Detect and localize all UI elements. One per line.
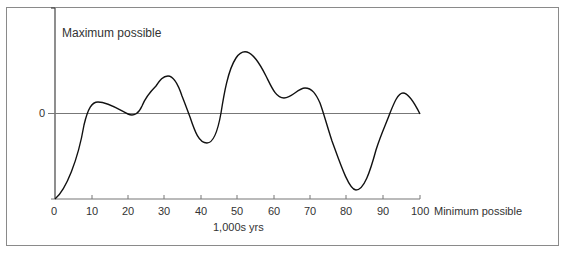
x-tick-label-0: 0 bbox=[51, 206, 57, 217]
data-curve bbox=[55, 52, 420, 199]
x-tick-label-60: 60 bbox=[268, 206, 280, 217]
x-tick-label-80: 80 bbox=[340, 206, 352, 217]
x-tick-label-20: 20 bbox=[122, 206, 134, 217]
x-tick-label-30: 30 bbox=[158, 206, 170, 217]
y-top-label: Maximum possible bbox=[62, 27, 161, 39]
x-tick-label-40: 40 bbox=[195, 206, 207, 217]
x-axis-unit-label: 1,000s yrs bbox=[213, 222, 264, 233]
x-tick-label-100: 100 bbox=[411, 206, 429, 217]
x-end-label: Minimum possible bbox=[434, 206, 522, 217]
x-tick-label-10: 10 bbox=[86, 206, 98, 217]
y-zero-label: 0 bbox=[39, 108, 45, 119]
x-tick-label-50: 50 bbox=[231, 206, 243, 217]
x-tick-label-90: 90 bbox=[377, 206, 389, 217]
x-tick-label-70: 70 bbox=[304, 206, 316, 217]
